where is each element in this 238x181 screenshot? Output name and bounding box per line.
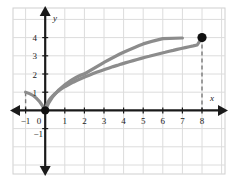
x-tick-label-5: 5 — [141, 116, 146, 126]
origin-point — [41, 106, 49, 114]
x-tick-label--1: −1 — [21, 116, 31, 126]
y-axis-label: y — [52, 13, 57, 23]
endpoint-8-4 — [197, 33, 206, 42]
x-tick-label-7: 7 — [180, 116, 185, 126]
graph-figure: −1 0 1 2 3 4 5 6 7 8 4 3 2 1 −1 y x — [0, 0, 238, 181]
x-tick-label-4: 4 — [121, 116, 126, 126]
x-tick-label-1: 1 — [63, 116, 68, 126]
y-tick-label-2: 2 — [33, 70, 38, 80]
y-tick-label--1: −1 — [33, 129, 43, 139]
y-tick-label-1: 1 — [33, 88, 38, 98]
y-tick-label-3: 3 — [33, 51, 38, 61]
coordinate-plane-svg: −1 0 1 2 3 4 5 6 7 8 4 3 2 1 −1 y x — [0, 0, 238, 181]
x-tick-label-3: 3 — [102, 116, 107, 126]
y-tick-label-4: 4 — [33, 33, 38, 43]
x-tick-label-8: 8 — [200, 116, 205, 126]
x-axis-label: x — [209, 93, 214, 103]
x-tick-label-2: 2 — [82, 116, 87, 126]
x-tick-label-0: 0 — [37, 116, 42, 126]
x-tick-label-6: 6 — [161, 116, 166, 126]
